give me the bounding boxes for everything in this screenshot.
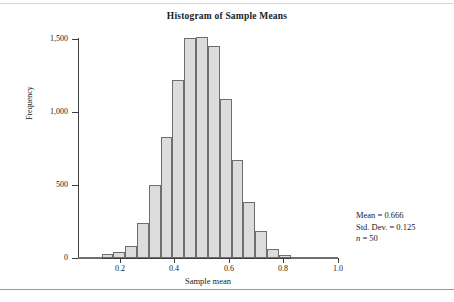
y-tick-label: 0 [64, 253, 68, 262]
x-tick-mark [338, 258, 339, 263]
histogram-bar [303, 257, 315, 259]
histogram-bar [279, 255, 291, 258]
x-tick-label: 0.6 [214, 264, 244, 273]
histogram-bar [172, 80, 184, 258]
x-axis-title: Sample mean [78, 276, 338, 286]
y-axis-title: Frequency [25, 86, 34, 120]
y-tick-label: 1,500 [50, 34, 68, 43]
y-tick-mark [72, 112, 78, 113]
histogram-bar [232, 160, 244, 258]
y-tick-label: 1,000 [50, 107, 68, 116]
histogram-figure: Histogram of Sample Means 05001,0001,500… [0, 0, 454, 288]
histogram-bar [149, 185, 161, 258]
histogram-bar [113, 252, 125, 258]
histogram-bar [90, 257, 102, 259]
x-tick-mark [229, 258, 230, 263]
x-tick-label: 0.8 [268, 264, 298, 273]
x-tick-mark [174, 258, 175, 263]
x-tick-mark [283, 258, 284, 263]
histogram-bar [161, 137, 173, 258]
histogram-bar [243, 202, 255, 258]
y-tick-label: 500 [56, 180, 68, 189]
histogram-bar [184, 38, 196, 258]
histogram-bar [267, 249, 279, 258]
histogram-bar [291, 257, 303, 259]
histogram-bar [314, 257, 326, 259]
x-tick-label: 0.2 [105, 264, 135, 273]
histogram-bar [196, 37, 208, 258]
histogram-bar [255, 231, 267, 258]
stat-stddev: Std. Dev. = 0.125 [356, 222, 416, 234]
stat-n: n = 50 [356, 233, 416, 245]
plot-area: 05001,0001,500 0.20.40.60.81.0 Frequency… [0, 0, 454, 288]
y-tick-mark [72, 39, 78, 40]
histogram-bar [208, 46, 220, 258]
histogram-bar [220, 99, 232, 258]
x-tick-label: 1.0 [323, 264, 353, 273]
stat-mean: Mean = 0.666 [356, 210, 416, 222]
histogram-bar [326, 257, 338, 259]
figure-page: Histogram of Sample Means 05001,0001,500… [0, 0, 454, 302]
x-tick-mark [120, 258, 121, 263]
stat-n-value: = 50 [360, 233, 378, 243]
statistics-annotation: Mean = 0.666 Std. Dev. = 0.125 n = 50 [356, 210, 416, 245]
y-tick-mark [72, 185, 78, 186]
histogram-bar [78, 257, 90, 259]
histogram-bar [102, 254, 114, 258]
histogram-bar [137, 223, 149, 258]
y-axis-line [78, 38, 79, 259]
histogram-bar [125, 246, 137, 258]
x-tick-label: 0.4 [159, 264, 189, 273]
page-rule-bottom [0, 289, 454, 290]
